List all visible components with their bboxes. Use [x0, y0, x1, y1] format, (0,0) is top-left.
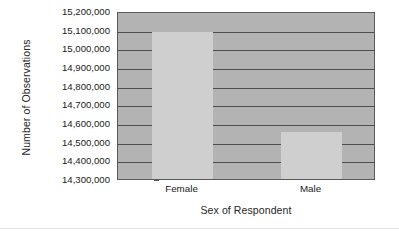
y-axis-tick-label: 14,600,000	[42, 119, 110, 129]
bar	[281, 132, 342, 179]
y-axis-tick-labels: 14,300,00014,400,00014,500,00014,600,000…	[42, 12, 110, 180]
bottom-divider	[0, 228, 399, 229]
bar	[152, 32, 213, 179]
x-axis-tick-label: Male	[246, 183, 375, 194]
y-axis-tick-label: 15,000,000	[42, 44, 110, 54]
y-axis-tick-label: 14,500,000	[42, 138, 110, 148]
y-axis-tick-mark	[154, 180, 159, 181]
x-axis-title: Sex of Respondent	[117, 204, 375, 216]
y-axis-tick-label: 14,400,000	[42, 156, 110, 166]
y-axis-tick-label: 15,100,000	[42, 26, 110, 36]
y-axis-tick-label: 14,900,000	[42, 63, 110, 73]
y-axis-tick-label: 14,800,000	[42, 82, 110, 92]
x-axis-tick-label: Female	[117, 183, 246, 194]
y-axis-tick-label: 15,200,000	[42, 7, 110, 17]
bar-chart-figure: Number of Observations 14,300,00014,400,…	[0, 0, 399, 236]
y-axis-tick-label: 14,300,000	[42, 175, 110, 185]
x-axis-tick-labels: FemaleMale	[117, 183, 375, 199]
y-axis-tick-label: 14,700,000	[42, 100, 110, 110]
y-axis-title: Number of Observations	[14, 5, 38, 190]
plot-area	[117, 12, 375, 180]
